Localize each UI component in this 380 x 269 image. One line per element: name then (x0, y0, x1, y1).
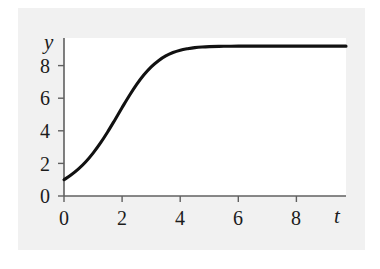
y-axis-ticks (58, 66, 64, 196)
x-tick-label-4: 4 (168, 208, 192, 228)
y-tick-label-8: 8 (28, 56, 50, 76)
x-axis-label: t (334, 206, 340, 227)
x-tick-label-2: 2 (110, 208, 134, 228)
x-tick-label-6: 6 (226, 208, 250, 228)
y-tick-label-4: 4 (28, 121, 50, 141)
chart-svg (0, 0, 380, 269)
y-axis-label: y (44, 32, 53, 53)
y-tick-label-2: 2 (28, 154, 50, 174)
x-axis-ticks (64, 196, 296, 202)
chart-figure: 8 6 4 2 0 0 2 4 6 8 y t (0, 0, 380, 269)
y-tick-label-0: 0 (28, 186, 50, 206)
y-tick-label-6: 6 (28, 88, 50, 108)
x-tick-label-0: 0 (52, 208, 76, 228)
x-tick-label-8: 8 (284, 208, 308, 228)
data-curve (64, 46, 346, 180)
